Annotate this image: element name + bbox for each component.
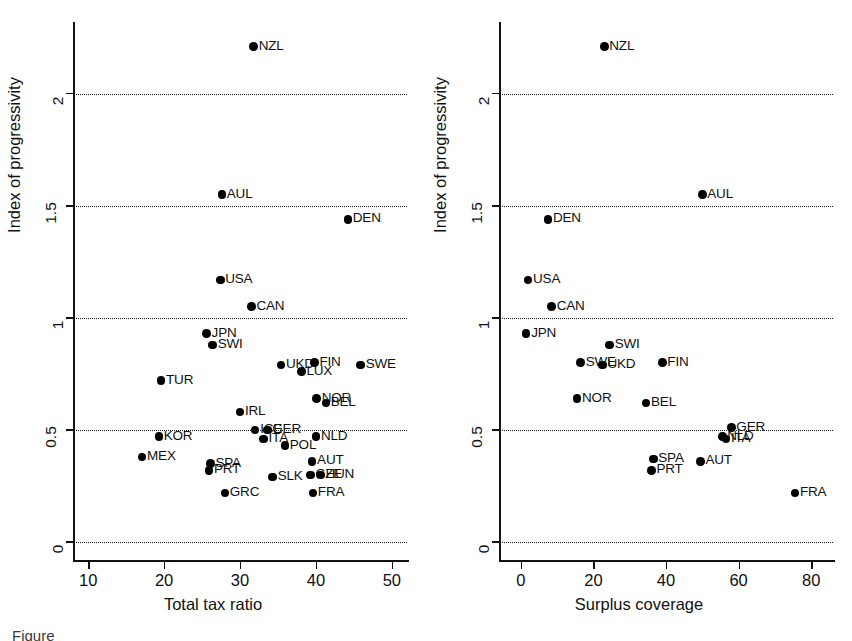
data-point-label: USA: [533, 272, 560, 286]
y-tick-label-container: 0.5: [492, 430, 493, 444]
data-point-marker: [600, 42, 609, 51]
data-point-label: UKD: [607, 357, 635, 371]
gridline-y: [74, 94, 407, 95]
x-axis-title: Total tax ratio: [0, 596, 426, 613]
data-point-label: MEX: [147, 449, 176, 463]
data-point-marker: [236, 408, 245, 417]
x-tick-label: 0: [516, 572, 525, 589]
y-tick-mark: [66, 541, 73, 542]
data-point-marker: [791, 489, 800, 498]
y-tick-mark: [66, 317, 73, 318]
data-point-marker: [218, 190, 227, 199]
data-point-marker: [658, 358, 667, 367]
figure-two-scatter-panels: Index of progressivity NZLAULDENUSACANJP…: [0, 0, 852, 641]
x-tick-label: 60: [729, 572, 747, 589]
x-tick-label: 20: [155, 572, 173, 589]
data-point-label: DEN: [553, 211, 581, 225]
data-point-label: PRT: [214, 462, 240, 476]
y-tick-label-container: 0: [492, 542, 493, 556]
x-tick-label: 50: [383, 572, 401, 589]
x-tick-label: 10: [79, 572, 97, 589]
data-point-label: AUT: [705, 453, 731, 467]
data-point-marker: [573, 394, 582, 403]
data-point-label: TUR: [166, 373, 193, 387]
data-point-marker: [297, 367, 306, 376]
data-point-label: FIN: [667, 355, 688, 369]
data-point-label: CAN: [256, 299, 284, 313]
data-point-marker: [312, 394, 321, 403]
x-tick-mark: [316, 561, 317, 569]
data-point-marker: [268, 473, 277, 482]
data-point-marker: [356, 361, 365, 370]
y-tick-mark: [66, 93, 73, 94]
gridline-y: [500, 430, 833, 431]
data-point-marker: [344, 215, 353, 224]
y-tick-label-container: 2: [492, 94, 493, 108]
data-point-marker: [598, 361, 607, 370]
data-point-marker: [277, 361, 286, 370]
data-point-label: CAN: [557, 299, 585, 313]
data-point-label: DEN: [353, 211, 381, 225]
x-axis-title: Surplus coverage: [426, 596, 852, 613]
y-tick-label: 2: [476, 96, 492, 105]
data-point-marker: [202, 329, 211, 338]
x-tick-mark: [739, 561, 740, 569]
data-point-label: AUL: [227, 187, 253, 201]
data-point-label: PRT: [656, 462, 682, 476]
data-point-marker: [696, 457, 705, 466]
y-tick-label-container: 1.5: [492, 206, 493, 220]
gridline-y: [500, 318, 833, 319]
y-tick-label: 1: [50, 321, 66, 330]
scatter-panel-surplus-coverage: Index of progressivity NZLAULDENUSACANJP…: [426, 0, 852, 610]
data-point-marker: [155, 432, 164, 441]
gridline-y: [74, 430, 407, 431]
data-point-marker: [157, 376, 166, 385]
y-tick-label-container: 0.5: [66, 430, 67, 444]
x-tick-mark: [811, 561, 812, 569]
y-tick-label: 0.5: [469, 426, 485, 448]
x-tick-mark: [88, 561, 89, 569]
data-point-label: NZL: [259, 39, 284, 53]
y-tick-label: 1.5: [43, 202, 59, 224]
data-point-label: IRL: [245, 404, 265, 418]
data-point-marker: [221, 489, 230, 498]
data-point-label: JPN: [531, 326, 556, 340]
gridline-y: [500, 94, 833, 95]
data-point-marker: [322, 399, 331, 408]
data-point-label: FRA: [800, 485, 826, 499]
data-point-label: SWI: [615, 337, 640, 351]
data-point-marker: [698, 190, 707, 199]
x-tick-mark: [666, 561, 667, 569]
plot-area: NZLAULDENUSACANJPNSWISWEUKDFINNORBELGERN…: [499, 22, 833, 560]
data-point-marker: [205, 466, 214, 475]
gridline-y: [500, 206, 833, 207]
x-tick-mark: [593, 561, 594, 569]
y-tick-label: 1.5: [469, 202, 485, 224]
data-point-marker: [316, 471, 325, 480]
y-tick-mark: [492, 317, 499, 318]
data-point-marker: [208, 341, 217, 350]
data-point-marker: [249, 42, 258, 51]
y-tick-label-container: 0: [66, 542, 67, 556]
data-point-label: HUN: [325, 467, 354, 481]
y-tick-label: 1: [476, 321, 492, 330]
plot-area: NZLAULDENUSACANJPNSWIUKDFINLUXSWETURNORB…: [73, 22, 407, 560]
data-point-label: NZL: [609, 39, 634, 53]
y-tick-label: 2: [50, 96, 66, 105]
y-tick-label-container: 2: [66, 94, 67, 108]
gridline-y: [74, 318, 407, 319]
data-point-label: BEL: [331, 395, 356, 409]
data-point-label: BEL: [651, 395, 676, 409]
data-point-marker: [576, 358, 585, 367]
data-point-label: POL: [290, 438, 316, 452]
data-point-marker: [309, 489, 318, 498]
x-tick-mark: [392, 561, 393, 569]
x-tick-label: 40: [307, 572, 325, 589]
x-tick-label: 30: [231, 572, 249, 589]
data-point-marker: [259, 435, 268, 444]
x-tick-mark: [240, 561, 241, 569]
x-tick-label: 40: [657, 572, 675, 589]
data-point-marker: [642, 399, 651, 408]
data-point-label: SWE: [366, 357, 396, 371]
data-point-label: GRC: [230, 485, 259, 499]
